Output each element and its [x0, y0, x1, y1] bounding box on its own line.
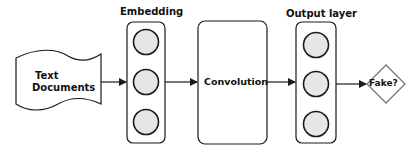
decision-label: Fake? — [369, 79, 398, 88]
embedding-neuron-3 — [134, 110, 159, 135]
convolution-label: Convolution — [204, 77, 268, 87]
embedding-title: Embedding — [120, 7, 183, 17]
output-neuron-3 — [304, 112, 329, 137]
embedding-neuron-2 — [134, 70, 159, 95]
output-neuron-2 — [304, 72, 329, 97]
output-layer-title: Output layer — [286, 9, 357, 19]
text-documents-label-line2: Documents — [32, 83, 95, 93]
embedding-neuron-1 — [134, 30, 159, 55]
text-documents-label-line1: Text — [35, 71, 59, 81]
output-neuron-1 — [304, 33, 329, 58]
